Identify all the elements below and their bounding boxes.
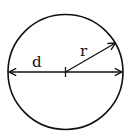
diameter-label: d bbox=[32, 53, 42, 71]
radius-line bbox=[66, 43, 116, 72]
radius-label: r bbox=[80, 42, 88, 60]
circle-diagram: d r bbox=[0, 0, 132, 139]
